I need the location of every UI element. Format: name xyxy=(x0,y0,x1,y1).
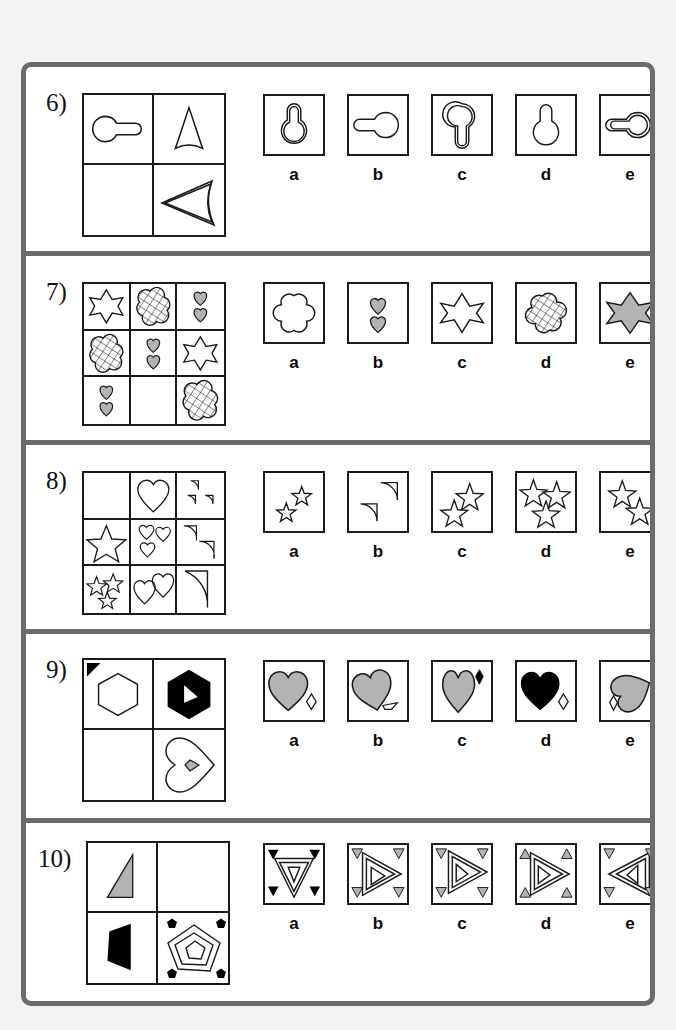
option-9-d[interactable]: d xyxy=(515,660,577,751)
option-6-e[interactable]: e xyxy=(599,94,655,185)
option-6-d-label: d xyxy=(515,165,577,185)
question-block-7: 7) xyxy=(26,256,650,445)
option-10-d-box[interactable] xyxy=(515,843,577,905)
option-8-a-label: a xyxy=(263,542,325,562)
option-9-a-box[interactable] xyxy=(263,660,325,722)
matrix-cell-r2c2 xyxy=(154,165,224,235)
option-9-e-label: e xyxy=(599,731,655,751)
option-9-b-box[interactable] xyxy=(347,660,409,722)
option-7-a-label: a xyxy=(263,353,325,373)
option-9-d-box[interactable] xyxy=(515,660,577,722)
option-7-d[interactable]: d xyxy=(515,282,577,373)
option-7-a-box[interactable] xyxy=(263,282,325,344)
options-row-6: a b c xyxy=(263,94,655,185)
option-7-b-box[interactable] xyxy=(347,282,409,344)
matrix-cell-r2c2 xyxy=(131,520,178,567)
option-9-a-label: a xyxy=(263,731,325,751)
option-10-c-label: c xyxy=(431,914,493,934)
matrix-cell-r3c2 xyxy=(131,377,178,424)
option-7-d-box[interactable] xyxy=(515,282,577,344)
option-8-d-label: d xyxy=(515,542,577,562)
option-7-e[interactable]: e xyxy=(599,282,655,373)
option-9-c[interactable]: c xyxy=(431,660,493,751)
option-10-a-box[interactable] xyxy=(263,843,325,905)
option-7-c[interactable]: c xyxy=(431,282,493,373)
matrix-cell-r2c3 xyxy=(177,520,224,567)
matrix-cell-r1c2 xyxy=(131,473,178,520)
matrix-cell-r2c1 xyxy=(84,165,154,235)
option-6-d-box[interactable] xyxy=(515,94,577,156)
option-10-b[interactable]: b xyxy=(347,843,409,934)
option-10-e[interactable]: e xyxy=(599,843,655,934)
matrix-grid-10 xyxy=(86,841,230,985)
option-9-e[interactable]: e xyxy=(599,660,655,751)
option-6-b-label: b xyxy=(347,165,409,185)
option-8-d[interactable]: d xyxy=(515,471,577,562)
option-8-e-label: e xyxy=(599,542,655,562)
matrix-grid-7 xyxy=(82,282,226,426)
option-9-a[interactable]: a xyxy=(263,660,325,751)
option-10-a[interactable]: a xyxy=(263,843,325,934)
matrix-cell-r1c2 xyxy=(158,843,228,913)
option-6-c[interactable]: c xyxy=(431,94,493,185)
option-10-b-box[interactable] xyxy=(347,843,409,905)
matrix-cell-r2c1 xyxy=(88,913,158,983)
option-6-b[interactable]: b xyxy=(347,94,409,185)
option-8-e[interactable]: e xyxy=(599,471,655,562)
matrix-cell-r1c3 xyxy=(177,284,224,331)
matrix-cell-r1c2 xyxy=(154,660,224,730)
option-8-b-box[interactable] xyxy=(347,471,409,533)
option-10-e-box[interactable] xyxy=(599,843,655,905)
matrix-grid-8 xyxy=(82,471,226,615)
matrix-grid-9 xyxy=(82,658,226,802)
option-6-c-label: c xyxy=(431,165,493,185)
option-8-d-box[interactable] xyxy=(515,471,577,533)
option-10-c-box[interactable] xyxy=(431,843,493,905)
option-6-a[interactable]: a xyxy=(263,94,325,185)
matrix-cell-r1c3 xyxy=(177,473,224,520)
matrix-cell-r2c2 xyxy=(131,331,178,378)
option-6-a-box[interactable] xyxy=(263,94,325,156)
option-7-a[interactable]: a xyxy=(263,282,325,373)
option-7-b[interactable]: b xyxy=(347,282,409,373)
option-7-c-box[interactable] xyxy=(431,282,493,344)
option-8-c[interactable]: c xyxy=(431,471,493,562)
option-6-e-box[interactable] xyxy=(599,94,655,156)
option-9-c-label: c xyxy=(431,731,493,751)
matrix-cell-r2c1 xyxy=(84,331,131,378)
worksheet-panel: 6) xyxy=(21,62,655,1006)
option-8-c-box[interactable] xyxy=(431,471,493,533)
option-9-e-box[interactable] xyxy=(599,660,655,722)
matrix-cell-r1c2 xyxy=(154,95,224,165)
question-block-6: 6) xyxy=(26,67,650,256)
option-10-b-label: b xyxy=(347,914,409,934)
option-8-a-box[interactable] xyxy=(263,471,325,533)
option-6-c-box[interactable] xyxy=(431,94,493,156)
option-9-c-box[interactable] xyxy=(431,660,493,722)
option-9-b[interactable]: b xyxy=(347,660,409,751)
matrix-cell-r2c2 xyxy=(158,913,228,983)
option-10-a-label: a xyxy=(263,914,325,934)
matrix-cell-r1c1 xyxy=(84,473,131,520)
option-7-e-box[interactable] xyxy=(599,282,655,344)
option-10-d[interactable]: d xyxy=(515,843,577,934)
option-6-a-label: a xyxy=(263,165,325,185)
option-7-c-label: c xyxy=(431,353,493,373)
matrix-cell-r3c3 xyxy=(177,566,224,613)
option-8-e-box[interactable] xyxy=(599,471,655,533)
matrix-cell-r3c3 xyxy=(177,377,224,424)
matrix-cell-r1c1 xyxy=(84,660,154,730)
matrix-grid-6 xyxy=(82,93,226,237)
option-8-b[interactable]: b xyxy=(347,471,409,562)
option-6-b-box[interactable] xyxy=(347,94,409,156)
question-number-10: 10) xyxy=(38,845,71,873)
matrix-cell-r2c1 xyxy=(84,520,131,567)
corner-marker-triangle xyxy=(87,663,101,677)
option-7-b-label: b xyxy=(347,353,409,373)
option-6-e-label: e xyxy=(599,165,655,185)
option-8-a[interactable]: a xyxy=(263,471,325,562)
option-8-c-label: c xyxy=(431,542,493,562)
option-6-d[interactable]: d xyxy=(515,94,577,185)
option-10-c[interactable]: c xyxy=(431,843,493,934)
option-10-e-label: e xyxy=(599,914,655,934)
